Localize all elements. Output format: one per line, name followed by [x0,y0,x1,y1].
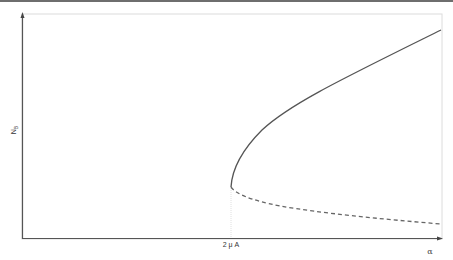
x-tick-label: 2 μ A [216,241,246,248]
unstable-branch-curve [231,187,441,224]
y-axis-arrow-icon [21,12,25,18]
bifurcation-diagram [0,0,453,260]
plot-frame [22,14,442,239]
y-axis-label-main: N [10,129,17,134]
x-axis-end-label: α [420,247,440,256]
y-axis-label: NB [4,118,24,142]
stable-branch-curve [231,30,441,187]
y-axis-label-subscript: B [13,126,19,129]
